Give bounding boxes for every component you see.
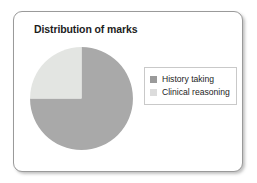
- page-title: Distribution of marks: [34, 23, 138, 35]
- pie-chart: [29, 46, 134, 151]
- chart-legend: History taking Clinical reasoning: [144, 67, 237, 105]
- pie-slice-clinical-reasoning: [30, 47, 81, 98]
- figure-card: Distribution of marks History taking Cli…: [13, 11, 243, 172]
- legend-label-history-taking: History taking: [162, 74, 214, 85]
- legend-item-history-taking: History taking: [150, 74, 232, 85]
- legend-item-clinical-reasoning: Clinical reasoning: [150, 87, 232, 98]
- legend-swatch-history-taking-icon: [150, 76, 157, 83]
- pie-chart-svg: [29, 46, 134, 151]
- legend-swatch-clinical-reasoning-icon: [150, 89, 157, 96]
- legend-label-clinical-reasoning: Clinical reasoning: [162, 87, 230, 98]
- figure-screenshot: Distribution of marks History taking Cli…: [0, 0, 257, 183]
